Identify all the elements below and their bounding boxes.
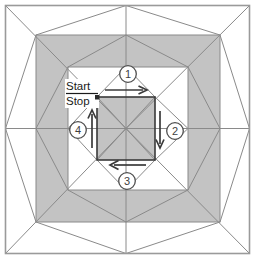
diagram-canvas: Start Stop 1 2 3 [0, 0, 255, 259]
start-stop-annotation: Start Stop [65, 79, 100, 108]
toolpath-diagram: Start Stop 1 2 3 [0, 0, 255, 259]
pass-1-number: 1 [125, 68, 131, 80]
start-point-marker [95, 95, 100, 100]
pass-4-number: 4 [75, 124, 81, 136]
start-label: Start [66, 80, 91, 92]
pass-3-number: 3 [124, 175, 130, 187]
stop-label: Stop [66, 95, 90, 107]
pass-2-number: 2 [172, 125, 178, 137]
